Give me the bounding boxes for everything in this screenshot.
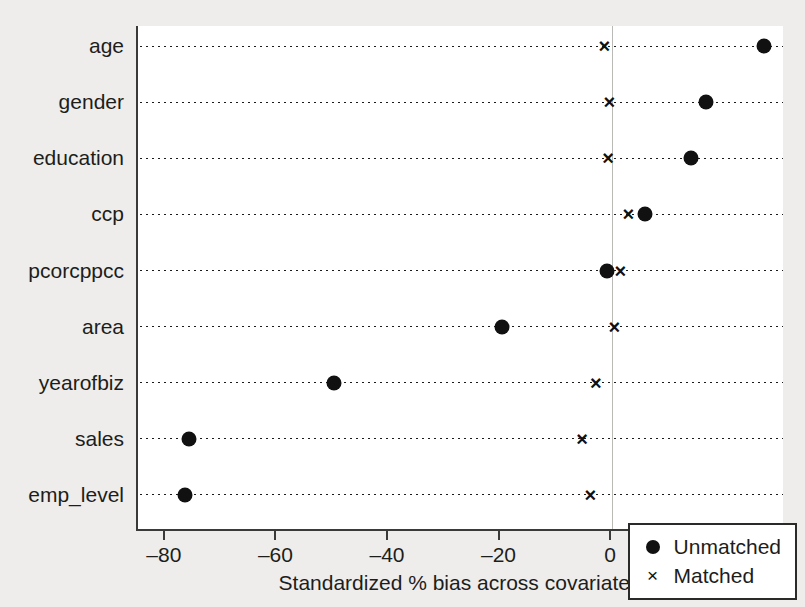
y-axis-label-age: age: [89, 34, 136, 58]
x-axis-tick: [274, 531, 276, 540]
x-axis-tick-label: –20: [481, 543, 516, 567]
y-axis-label-education: education: [33, 146, 136, 170]
y-axis-label-sales: sales: [75, 427, 136, 451]
cross-icon: ×: [640, 566, 666, 585]
data-point-unmatched-education: [684, 151, 699, 166]
chart-canvas: agegendereducationccppcorcppccareayearof…: [0, 0, 805, 607]
data-point-matched-ccp: [621, 207, 635, 221]
data-point-matched-area: [607, 320, 621, 334]
legend-label-unmatched: Unmatched: [666, 535, 781, 559]
chart-page: agegendereducationccppcorcppccareayearof…: [0, 0, 805, 607]
x-axis-tick: [163, 531, 165, 540]
plot-area: [136, 26, 783, 531]
data-point-unmatched-age: [757, 39, 772, 54]
x-axis-tick-label: –80: [146, 543, 181, 567]
x-axis-tick: [386, 531, 388, 540]
grid-row: [138, 213, 783, 216]
y-axis-label-emp_level: emp_level: [28, 483, 136, 507]
data-point-unmatched-gender: [699, 95, 714, 110]
grid-row: [138, 45, 783, 48]
data-point-matched-pcorcppcc: [613, 264, 627, 278]
chart-legend: Unmatched × Matched: [628, 523, 797, 600]
x-axis-tick-label: –60: [258, 543, 293, 567]
data-point-matched-emp_level: [583, 488, 597, 502]
grid-row: [138, 493, 783, 496]
legend-label-matched: Matched: [666, 564, 755, 588]
grid-row: [138, 437, 783, 440]
grid-row: [138, 381, 783, 384]
data-point-matched-education: [601, 151, 615, 165]
legend-item-matched: × Matched: [640, 561, 781, 590]
data-point-unmatched-sales: [181, 431, 196, 446]
grid-row: [138, 101, 783, 104]
data-point-matched-age: [597, 39, 611, 53]
x-axis-tick-label: –40: [369, 543, 404, 567]
filled-circle-icon: [640, 540, 666, 554]
data-point-unmatched-yearofbiz: [327, 375, 342, 390]
data-point-matched-gender: [602, 95, 616, 109]
y-axis-label-pcorcppcc: pcorcppcc: [28, 259, 136, 283]
y-axis-label-gender: gender: [59, 90, 136, 114]
data-point-unmatched-ccp: [638, 207, 653, 222]
grid-row: [138, 325, 783, 328]
data-point-unmatched-emp_level: [177, 487, 192, 502]
data-point-matched-sales: [575, 432, 589, 446]
x-axis-tick: [609, 531, 611, 540]
y-axis-label-area: area: [82, 315, 136, 339]
y-axis-label-ccp: ccp: [91, 202, 136, 226]
y-axis-labels: agegendereducationccppcorcppccareayearof…: [0, 26, 136, 531]
x-axis-tick-label: 0: [604, 543, 616, 567]
legend-item-unmatched: Unmatched: [640, 532, 781, 561]
data-point-unmatched-pcorcppcc: [600, 263, 615, 278]
data-point-matched-yearofbiz: [589, 376, 603, 390]
data-point-unmatched-area: [494, 319, 509, 334]
x-axis-tick: [498, 531, 500, 540]
y-axis-label-yearofbiz: yearofbiz: [39, 371, 136, 395]
grid-row: [138, 269, 783, 272]
